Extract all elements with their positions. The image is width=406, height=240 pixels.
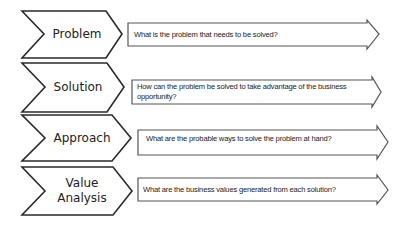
step-label-analysis: Analysis [46, 191, 118, 206]
question-value-analysis: What are the business values generated f… [143, 185, 377, 195]
question-solution-line1: How can the problem be solved to take ad… [137, 82, 375, 92]
step-label-problem: Problem [44, 27, 110, 42]
step-label-value-analysis: Value Analysis [46, 176, 118, 206]
question-approach: What are the probable ways to solve the … [146, 134, 376, 144]
step-label-value: Value [46, 176, 118, 191]
step-label-solution: Solution [44, 80, 112, 95]
step-label-approach: Approach [46, 131, 118, 146]
question-solution: How can the problem be solved to take ad… [137, 82, 375, 102]
question-problem: What is the problem that needs to be sol… [134, 30, 366, 40]
question-solution-line2: opportunity? [137, 92, 375, 102]
